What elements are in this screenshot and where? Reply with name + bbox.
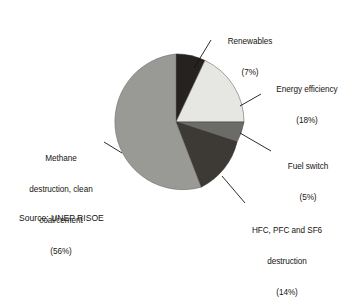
pie-label-hfc-pfc-sf6-name-1: HFC, PFC and SF6 [228, 226, 346, 236]
pie-label-energy-efficiency-name: Energy efficiency [262, 85, 352, 95]
pie-label-hfc-pfc-sf6: HFC, PFC and SF6 destruction (14%) [228, 205, 346, 301]
pie-label-methane-name-2: destruction, clean [12, 185, 110, 195]
pie-label-energy-efficiency: Energy efficiency (18%) [262, 64, 352, 147]
pie-label-methane-value: (56%) [12, 247, 110, 257]
pie-label-hfc-pfc-sf6-name-2: destruction [228, 257, 346, 267]
pie-label-energy-efficiency-value: (18%) [262, 116, 352, 126]
pie-label-fuel-switch-name: Fuel switch [272, 162, 344, 172]
pie-label-renewables-name: Renewables [212, 37, 288, 47]
leader-line-hfc-pfc-sf6 [222, 176, 245, 203]
pie-label-hfc-pfc-sf6-value: (14%) [228, 288, 346, 298]
pie-label-fuel-switch-value: (5%) [272, 193, 344, 203]
source-note: Source: UNEP RISOE [19, 213, 104, 224]
pie-label-methane-name-1: Methane [12, 154, 110, 164]
pie-label-methane-destruction: Methane destruction, clean coal/cement (… [12, 133, 110, 279]
